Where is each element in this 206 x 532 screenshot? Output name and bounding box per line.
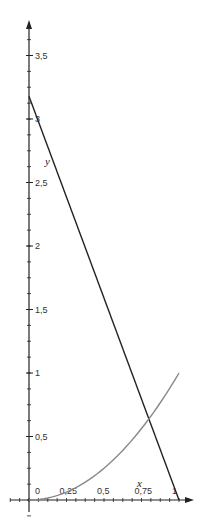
parabola-curve <box>29 373 179 500</box>
y-tick-label: 3,5 <box>35 51 48 61</box>
x-axis-label: x <box>136 477 142 489</box>
y-tick-label: 2,5 <box>35 178 48 188</box>
x-tick-label: 0 <box>35 486 40 496</box>
y-axis-arrow-icon <box>26 20 32 29</box>
x-axis-arrow-icon <box>185 497 194 503</box>
y-tick-label: 2 <box>35 241 40 251</box>
y-axis: 0,511,522,533,5 <box>26 20 48 516</box>
x-axis: 00,250,50,751 <box>10 486 194 503</box>
x-tick-label: 0,5 <box>97 486 110 496</box>
series-group <box>29 96 179 500</box>
chart-canvas: 0,511,522,533,5 00,250,50,751 y x <box>0 0 206 532</box>
y-tick-label: 1,5 <box>35 305 48 315</box>
y-tick-label: 1 <box>35 368 40 378</box>
y-axis-label: y <box>44 155 50 167</box>
y-tick-label: 0,5 <box>35 432 48 442</box>
decreasing-line <box>29 96 179 500</box>
